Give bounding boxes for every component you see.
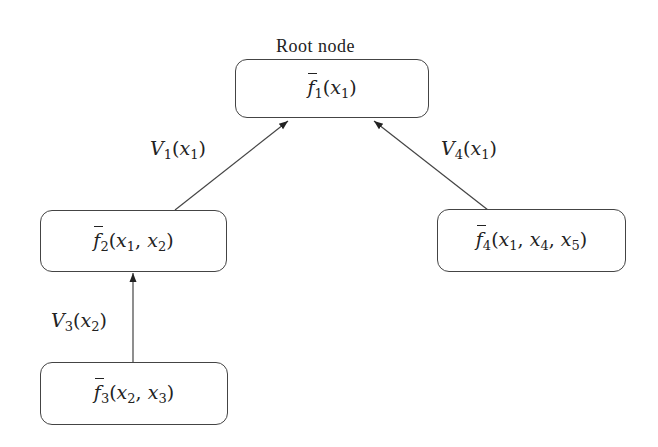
node-f3: f3(x2, x3) (40, 362, 228, 425)
edge-label-v3: V3(x2) (51, 309, 107, 334)
node-f4: f4(x1, x4, x5) (437, 209, 626, 272)
edge-f2-f1 (175, 121, 288, 210)
edge-label-v4: V4(x1) (441, 137, 497, 162)
node-f3-expr: f3(x2, x3) (94, 381, 174, 406)
node-f4-expr: f4(x1, x4, x5) (476, 228, 587, 253)
node-f2-expr: f2(x1, x2) (93, 229, 173, 254)
node-f2: f2(x1, x2) (40, 210, 227, 272)
node-f1-root: f1(x1) (235, 59, 429, 118)
edge-label-v1: V1(x1) (150, 137, 206, 162)
edge-f4-f1 (374, 121, 488, 210)
node-f1-expr: f1(x1) (307, 76, 356, 101)
